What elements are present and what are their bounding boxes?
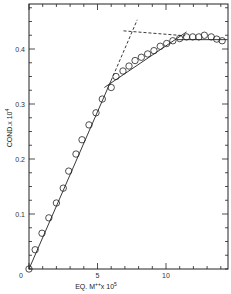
fit-line-plateau-extension xyxy=(124,31,186,36)
data-point xyxy=(144,51,150,57)
x-tick-label: 10 xyxy=(162,272,170,279)
y-tick-label: 0.1 xyxy=(15,211,25,218)
y-tick-label: 0.3 xyxy=(15,101,25,108)
data-point xyxy=(157,43,163,49)
x-tick-label: 5 xyxy=(96,272,100,279)
fit-line-second-slope xyxy=(104,32,186,88)
x-tick-label: 0 xyxy=(19,272,23,279)
y-tick-label: 0.4 xyxy=(15,46,25,53)
data-point xyxy=(108,84,114,90)
data-point xyxy=(201,32,207,38)
data-point xyxy=(138,54,144,60)
data-point xyxy=(151,47,157,53)
fit-lines xyxy=(29,20,228,269)
data-point xyxy=(120,68,126,74)
fit-line-initial-slope xyxy=(29,80,111,269)
data-point xyxy=(86,122,92,128)
data-point xyxy=(126,63,132,69)
tick-labels: 05100.10.20.30.4 xyxy=(15,46,170,280)
fit-line-initial-slope-extension xyxy=(111,20,137,81)
plot-frame xyxy=(29,4,228,269)
data-points xyxy=(26,32,226,272)
conductance-chart: 05100.10.20.30.4 EQ. M++x 105 COND.x 104 xyxy=(0,0,231,294)
x-axis-label: EQ. M++x 105 xyxy=(75,281,117,291)
plot-border xyxy=(29,4,228,269)
data-point xyxy=(66,168,72,174)
y-axis-label: COND.x 104 xyxy=(4,108,13,147)
data-point xyxy=(73,151,79,157)
data-point xyxy=(132,57,138,63)
data-point xyxy=(219,38,225,44)
data-point xyxy=(113,73,119,79)
y-tick-label: 0.2 xyxy=(15,156,25,163)
data-point xyxy=(190,34,196,40)
data-point xyxy=(183,34,189,40)
axis-ticks xyxy=(29,4,228,269)
data-point xyxy=(79,137,85,143)
